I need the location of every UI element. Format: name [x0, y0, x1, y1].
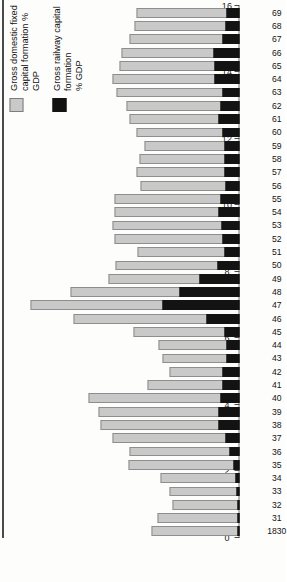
bar-gdfcf [128, 460, 240, 470]
category-label: 48 [272, 288, 282, 297]
bar-group [16, 299, 239, 312]
bar-railway [233, 460, 239, 470]
bar-gdfcf [116, 88, 239, 98]
bar-railway [220, 393, 240, 403]
bar-railway [226, 8, 239, 18]
bar-railway [218, 114, 239, 124]
legend-label-gdfcf: Gross domestic fixed capital formation %… [8, 0, 41, 91]
bar-group [16, 365, 239, 378]
bar-group [16, 392, 239, 405]
category-label: 38 [272, 421, 282, 430]
bar-group [16, 179, 239, 192]
bar-group [16, 113, 239, 126]
legend-item: Gross domestic fixed capital formation %… [8, 0, 41, 112]
bar-railway [218, 207, 239, 217]
scanned-page: 0246810121416 18303132333435363738394041… [0, 0, 285, 582]
category-label: 39 [272, 407, 282, 416]
bar-railway [222, 128, 239, 138]
category-label: 64 [272, 75, 282, 84]
bar-group [16, 232, 239, 245]
category-label: 55 [272, 195, 282, 204]
bar-railway [179, 287, 239, 297]
bar-group [16, 445, 239, 458]
category-label: 58 [272, 155, 282, 164]
bar-group [16, 432, 239, 445]
value-tick [234, 138, 239, 139]
bar-group [16, 498, 239, 511]
legend-swatch-rail [52, 98, 66, 112]
category-label: 35 [272, 461, 282, 470]
bar-group [16, 339, 239, 352]
bar-group [16, 192, 239, 205]
category-label: 32 [272, 500, 282, 509]
bar-railway [221, 221, 239, 231]
bar-railway [222, 34, 239, 44]
bar-railway [222, 234, 239, 244]
bar-group [16, 259, 239, 272]
bar-railway [235, 473, 239, 483]
bar-railway [220, 194, 240, 204]
category-label: 49 [272, 274, 282, 283]
bar-gdfcf [114, 234, 239, 244]
category-label: 63 [272, 88, 282, 97]
bar-group [16, 418, 239, 431]
legend-swatch-gdfcf [9, 98, 23, 112]
bar-railway [220, 101, 240, 111]
category-label: 57 [272, 168, 282, 177]
bar-group [16, 245, 239, 258]
chart-legend: Gross domestic fixed capital formation %… [8, 0, 94, 112]
category-label: 69 [272, 8, 282, 17]
bar-railway [224, 167, 239, 177]
bar-group [16, 352, 239, 365]
bar-railway [218, 407, 239, 417]
bar-gdfcf [157, 513, 239, 523]
bar-railway [225, 433, 239, 443]
value-tick [234, 271, 239, 272]
category-label: 53 [272, 221, 282, 230]
bar-railway [222, 367, 239, 377]
bar-gdfcf [172, 500, 239, 510]
bar-group [16, 219, 239, 232]
bar-railway [237, 500, 239, 510]
bar-gdfcf [133, 327, 239, 337]
bar-group [16, 166, 239, 179]
category-label: 59 [272, 141, 282, 150]
bar-group [16, 206, 239, 219]
legend-label-rail: Gross railway capital formation % GDP [51, 0, 84, 91]
bar-railway [237, 513, 239, 523]
bar-railway [224, 247, 239, 257]
bar-railway [218, 420, 239, 430]
value-tick [234, 537, 239, 538]
legend-item: Gross railway capital formation % GDP [51, 0, 84, 112]
category-label: 62 [272, 101, 282, 110]
bar-railway [222, 88, 239, 98]
bar-group [16, 405, 239, 418]
category-label: 46 [272, 314, 282, 323]
category-label: 45 [272, 328, 282, 337]
category-label: 33 [272, 487, 282, 496]
bar-railway [226, 340, 239, 350]
bar-group [16, 511, 239, 524]
value-tick [234, 404, 239, 405]
value-tick [234, 338, 239, 339]
category-label: 56 [272, 181, 282, 190]
category-label: 40 [272, 394, 282, 403]
category-label: 68 [272, 22, 282, 31]
bar-gdfcf [160, 473, 239, 483]
bar-railway [206, 314, 239, 324]
bar-gdfcf [112, 433, 239, 443]
bar-group [16, 139, 239, 152]
bar-group [16, 325, 239, 338]
category-label: 1830 [267, 527, 285, 536]
bar-group [16, 458, 239, 471]
bar-railway [224, 327, 239, 337]
category-label: 42 [272, 367, 282, 376]
bar-group [16, 285, 239, 298]
category-label: 41 [272, 381, 282, 390]
value-axis-baseline [238, 6, 239, 538]
bar-railway [214, 61, 239, 71]
bar-gdfcf [134, 21, 239, 31]
category-label: 66 [272, 48, 282, 57]
bar-railway [224, 141, 239, 151]
chart-stage: 0246810121416 18303132333435363738394041… [0, 0, 285, 582]
